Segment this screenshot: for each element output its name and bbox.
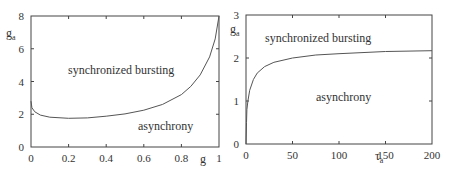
y-tick-label: 4 [19, 76, 25, 88]
y-tick-label: 0 [234, 138, 240, 150]
left-region-upper-label: synchronized bursting [68, 63, 174, 77]
y-tick-label: 2 [234, 52, 240, 64]
right-x-axis-label-sub: a [380, 156, 384, 165]
y-tick-label: 2 [19, 108, 25, 120]
y-tick-label: 0 [19, 141, 25, 153]
y-tick-label: 3 [234, 9, 240, 21]
y-tick-label: 6 [19, 43, 25, 55]
x-tick-label: 0 [28, 152, 34, 164]
x-tick-label: 0.4 [99, 152, 113, 164]
x-tick-label: 0.6 [137, 152, 151, 164]
right-y-axis-label-sub: a [236, 29, 240, 38]
right-y-axis-label: ga [230, 22, 240, 38]
figure: 00.20.40.60.8102468 synchronized burstin… [0, 0, 453, 171]
left-ticks: 00.20.40.60.8102468 [19, 10, 222, 164]
x-tick-label: 0.2 [62, 152, 76, 164]
x-tick-label: 0.8 [175, 152, 189, 164]
right-region-upper-label: synchronized bursting [265, 31, 371, 45]
x-tick-label: 1 [216, 152, 222, 164]
y-tick-label: 1 [234, 95, 240, 107]
right-region-lower-label: asynchrony [316, 90, 371, 104]
left-x-axis-label: g [200, 152, 206, 166]
x-tick-label: 200 [424, 149, 441, 161]
left-y-axis-label: ga [6, 26, 16, 42]
x-tick-label: 50 [287, 149, 299, 161]
left-plot: 00.20.40.60.8102468 synchronized burstin… [6, 10, 222, 166]
left-y-axis-label-sub: a [12, 33, 16, 42]
right-plot: 0501001502000123 synchronized bursting a… [230, 9, 441, 165]
left-region-lower-label: asynchrony [138, 119, 193, 133]
x-tick-label: 0 [243, 149, 249, 161]
y-tick-label: 8 [19, 10, 25, 22]
x-tick-label: 100 [331, 149, 348, 161]
